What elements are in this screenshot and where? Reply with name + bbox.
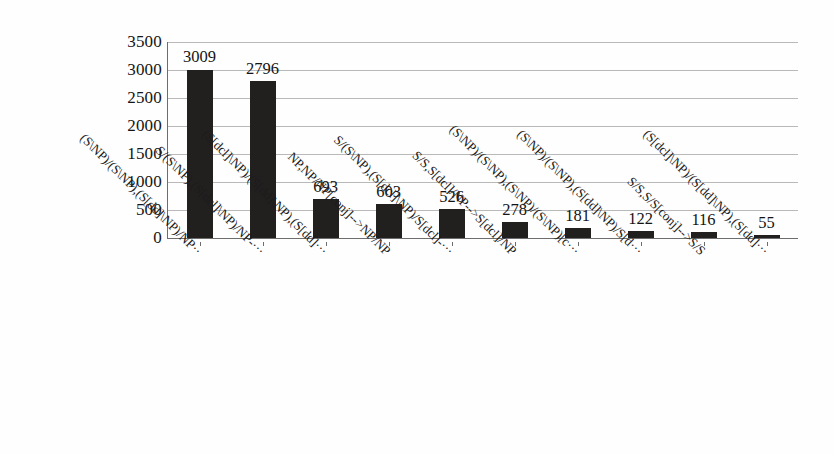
bar[interactable]	[735, 42, 798, 238]
bar-rect[interactable]	[187, 70, 213, 239]
y-tick-label: 2500	[100, 89, 162, 106]
y-tick-label: 3500	[100, 33, 162, 50]
x-axis-category-labels: (S\NP)/(S\NP),(S[dd]\NP)/NP··S/(S\NP),(S…	[168, 242, 828, 448]
bar-value-label: 2796	[246, 61, 279, 78]
bar-rect[interactable]	[250, 81, 276, 238]
bar-value-label: 55	[758, 215, 775, 232]
y-tick-label: 3000	[100, 61, 162, 78]
plot-area: 3009279669360352627818112211655	[168, 42, 798, 238]
bar-value-label: 3009	[183, 49, 216, 66]
bar-chart-figure: 3500 3000 2500 2000 1500 1000 500 0 3009…	[0, 0, 834, 454]
bar-value-label: 181	[565, 208, 590, 225]
y-tick-label: 0	[100, 229, 162, 246]
x-axis-line	[168, 238, 798, 239]
y-tick-label: 2000	[100, 117, 162, 134]
bar-value-label: 122	[628, 211, 653, 228]
bar-value-label: 116	[691, 212, 715, 229]
